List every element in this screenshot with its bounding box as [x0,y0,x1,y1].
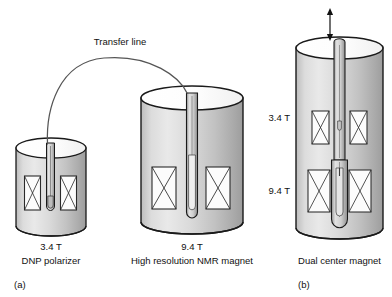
dual-magnet-upper-sample [338,121,342,130]
transfer-line-label: Transfer line [94,36,146,47]
nmr-magnet-coil-left [152,167,176,209]
dnp-polarizer-sample-tube [47,143,55,211]
dnp-polarizer-caption: DNP polarizer [22,255,81,266]
dnp-polarizer-coil-right [61,176,77,210]
figure-dnp-nmr-magnets: Transfer line [0,0,392,297]
dual-magnet-shuttle-tube [332,39,348,228]
dual-magnet-upper-field-label: 3.4 T [269,112,291,123]
dnp-polarizer-group [16,138,86,236]
panel-label-a: (a) [14,279,26,290]
high-resolution-nmr-magnet-group [141,86,243,234]
dual-magnet-coil-upper-right [350,111,367,144]
panel-label-b: (b) [298,279,310,290]
nmr-magnet-sample-tube [187,93,198,218]
nmr-magnet-coil-right [206,167,230,209]
dual-magnet-coil-upper-left [312,111,329,144]
dual-center-magnet-caption: Dual center magnet [298,255,381,266]
nmr-magnet-caption: High resolution NMR magnet [131,255,253,266]
dnp-polarizer-field-label: 3.4 T [40,241,62,252]
dual-magnet-coil-lower-right [349,170,371,212]
nmr-magnet-field-label: 9.4 T [181,241,203,252]
dual-magnet-coil-lower-left [308,170,330,212]
dnp-sample-bead [48,196,53,208]
dual-magnet-lower-field-label: 9.4 T [269,185,291,196]
nmr-inner-sample [189,155,196,210]
dnp-polarizer-coil-left [25,176,41,210]
